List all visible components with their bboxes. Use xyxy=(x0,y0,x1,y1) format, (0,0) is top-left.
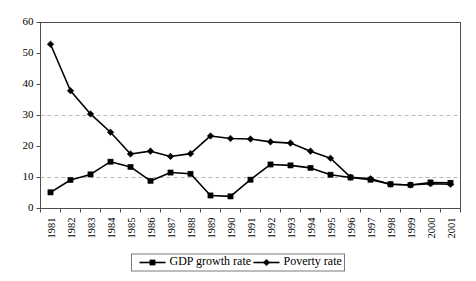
y-tick-label: 50 xyxy=(23,46,35,58)
y-tick-label: 40 xyxy=(23,77,35,89)
x-tick-label: 1997 xyxy=(366,218,377,239)
x-tick-label: 1999 xyxy=(406,218,417,239)
legend-label: Poverty rate xyxy=(284,254,342,268)
legend-label: GDP growth rate xyxy=(170,254,252,268)
data-point-marker-square xyxy=(308,165,313,170)
chart-legend: GDP growth ratePoverty rate xyxy=(132,254,345,271)
x-tick-label: 1994 xyxy=(306,217,317,239)
y-tick-label: 20 xyxy=(23,139,35,151)
data-point-marker-square xyxy=(148,178,153,183)
x-axis: 1981198219831984198519861987198819891990… xyxy=(41,209,461,239)
x-tick-label: 1983 xyxy=(86,218,97,239)
data-point-marker-square xyxy=(128,164,133,169)
chart-container: 0102030405060 19811982198319841985198619… xyxy=(0,0,476,281)
y-tick-label: 30 xyxy=(23,108,35,120)
y-tick-label: 60 xyxy=(23,15,35,27)
y-tick-label: 10 xyxy=(23,170,35,182)
x-tick-label: 1995 xyxy=(326,218,337,239)
data-point-marker-square xyxy=(48,190,53,195)
x-tick-label: 1985 xyxy=(126,218,137,239)
data-point-marker-square xyxy=(168,170,173,175)
data-point-marker-square xyxy=(268,162,273,167)
line-chart: 0102030405060 19811982198319841985198619… xyxy=(0,0,476,281)
x-tick-label: 1987 xyxy=(166,218,177,239)
y-axis: 0102030405060 xyxy=(23,15,41,213)
data-point-marker-square xyxy=(108,159,113,164)
x-tick-label: 1986 xyxy=(146,218,157,239)
data-point-marker-square xyxy=(328,172,333,177)
data-point-marker-square xyxy=(188,171,193,176)
data-point-marker-square xyxy=(68,177,73,182)
x-tick-label: 1990 xyxy=(226,218,237,239)
x-tick-label: 1996 xyxy=(346,218,357,239)
data-point-marker-square xyxy=(288,163,293,168)
x-tick-label: 1981 xyxy=(46,218,57,239)
data-point-marker-square xyxy=(208,193,213,198)
x-tick-label: 1988 xyxy=(186,218,197,239)
x-tick-label: 1991 xyxy=(246,218,257,239)
data-point-marker-square xyxy=(150,260,155,265)
x-tick-label: 1992 xyxy=(266,218,277,239)
data-point-marker-square xyxy=(248,177,253,182)
x-tick-label: 1982 xyxy=(66,218,77,239)
x-tick-label: 2001 xyxy=(446,218,457,239)
data-point-marker-square xyxy=(228,194,233,199)
x-tick-label: 1998 xyxy=(386,218,397,239)
x-tick-label: 1984 xyxy=(106,217,117,239)
data-point-marker-square xyxy=(88,172,93,177)
y-tick-label: 0 xyxy=(28,201,34,213)
x-tick-label: 1989 xyxy=(206,218,217,239)
x-tick-label: 2000 xyxy=(426,218,437,239)
x-tick-label: 1993 xyxy=(286,218,297,239)
